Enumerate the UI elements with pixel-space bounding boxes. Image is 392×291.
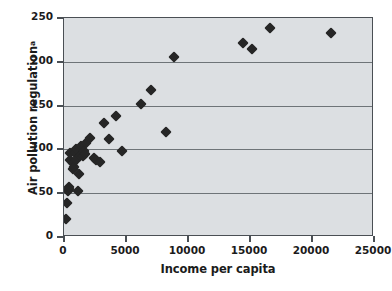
y-tick-mark (57, 105, 63, 107)
data-point (117, 145, 128, 156)
data-point (98, 117, 109, 128)
x-axis-title: Income per capita (63, 262, 373, 276)
x-tick-mark (249, 236, 251, 242)
y-tick-label: 150 (31, 98, 53, 110)
data-point (110, 110, 121, 121)
data-point (63, 197, 73, 208)
gridline (64, 193, 372, 194)
x-tick-mark (311, 236, 313, 242)
plot-area (63, 17, 373, 236)
y-tick-label: 50 (38, 185, 53, 197)
x-tick-label: 20000 (293, 244, 330, 256)
y-tick-label: 200 (31, 54, 53, 66)
x-tick-label: 10000 (169, 244, 206, 256)
data-point (247, 43, 258, 54)
y-tick-mark (57, 148, 63, 150)
data-point (325, 27, 336, 38)
x-tick-label: 25000 (355, 244, 392, 256)
y-tick-label: 0 (46, 229, 53, 241)
gridline (64, 106, 372, 107)
x-tick-mark (373, 236, 375, 242)
x-tick-label: 0 (59, 244, 66, 256)
data-point (264, 22, 275, 33)
data-point (160, 126, 171, 137)
data-point (63, 213, 72, 224)
y-axis-title: Air pollution regulationa (22, 0, 44, 236)
x-tick-mark (125, 236, 127, 242)
data-point (145, 84, 156, 95)
data-point (135, 98, 146, 109)
gridline (64, 149, 372, 150)
x-tick-label: 5000 (110, 244, 139, 256)
y-tick-mark (57, 61, 63, 63)
x-tick-label: 15000 (231, 244, 268, 256)
y-tick-mark (57, 192, 63, 194)
y-tick-mark (57, 17, 63, 19)
y-axis-title-text: Air pollution regulation (26, 46, 40, 195)
chart-figure: Air pollution regulationa Income per cap… (0, 0, 392, 291)
y-tick-label: 250 (31, 10, 53, 22)
x-tick-mark (63, 236, 65, 242)
y-tick-label: 100 (31, 141, 53, 153)
gridline (64, 62, 372, 63)
x-tick-mark (187, 236, 189, 242)
data-point (103, 133, 114, 144)
